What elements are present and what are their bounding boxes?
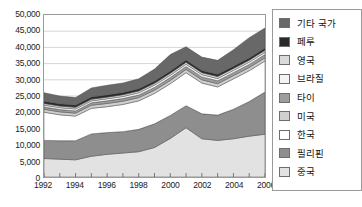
legend-item: 기타 국가 bbox=[279, 14, 361, 33]
legend-item: 타이 bbox=[279, 88, 361, 107]
plot-area bbox=[43, 14, 266, 178]
legend-label: 한국 bbox=[297, 130, 315, 140]
x-axis-tick-label: 1996 bbox=[98, 181, 116, 190]
plot-region: 19921994199619982000200220042006 bbox=[0, 0, 272, 207]
legend-label: 기타 국가 bbox=[297, 19, 336, 29]
figure-footnote bbox=[2, 197, 202, 207]
legend-label: 영국 bbox=[297, 56, 315, 66]
x-axis-tick-label: 2002 bbox=[193, 181, 211, 190]
legend-item: 영국 bbox=[279, 51, 361, 70]
legend-swatch bbox=[279, 18, 290, 28]
stacked-area-svg bbox=[44, 15, 265, 177]
legend-swatch bbox=[279, 148, 290, 158]
legend-label: 타이 bbox=[297, 93, 315, 103]
legend-item: 미국 bbox=[279, 107, 361, 126]
x-axis-tick-label: 1998 bbox=[130, 181, 148, 190]
legend-label: 필리핀 bbox=[297, 149, 324, 159]
legend-item: 중국 bbox=[279, 163, 361, 182]
legend-swatch bbox=[279, 167, 290, 177]
x-axis-tick-label: 1994 bbox=[66, 181, 84, 190]
legend-label: 중국 bbox=[297, 167, 315, 177]
area-series-group bbox=[44, 28, 265, 177]
legend-label: 브라질 bbox=[297, 74, 324, 84]
legend-item: 브라질 bbox=[279, 70, 361, 89]
x-axis-tick-label: 1992 bbox=[34, 181, 52, 190]
legend-label: 미국 bbox=[297, 112, 315, 122]
legend-label: 페루 bbox=[297, 37, 315, 47]
legend-item: 필리핀 bbox=[279, 144, 361, 163]
legend-swatch bbox=[279, 55, 290, 65]
chart-legend: 기타 국가페루영국브라질타이미국한국필리핀중국 bbox=[272, 9, 362, 191]
legend-swatch bbox=[279, 37, 290, 47]
legend-item: 한국 bbox=[279, 126, 361, 145]
x-axis-labels: 19921994199619982000200220042006 bbox=[0, 181, 272, 197]
legend-swatch bbox=[279, 74, 290, 84]
legend-swatch bbox=[279, 111, 290, 121]
legend-swatch bbox=[279, 130, 290, 140]
legend-item: 페루 bbox=[279, 33, 361, 52]
legend-swatch bbox=[279, 93, 290, 103]
chart-figure: 05,00010,00015,00020,00025,00030,00035,0… bbox=[0, 0, 362, 207]
x-axis-tick-label: 2004 bbox=[225, 181, 243, 190]
x-axis-tick-label: 2000 bbox=[161, 181, 179, 190]
